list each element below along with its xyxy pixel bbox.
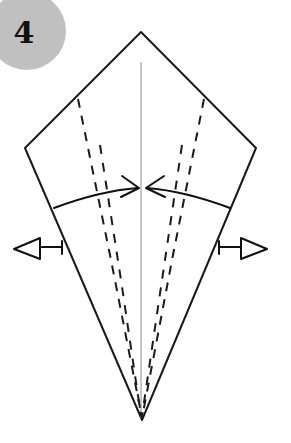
pull-arrow-right-outward-icon (219, 238, 267, 259)
origami-step-diagram: 4 (0, 0, 291, 443)
pull-arrow-right-head (241, 238, 267, 259)
pull-arrow-left-head (14, 238, 40, 259)
pull-arrow-left-outward-icon (14, 238, 62, 259)
step-number-label: 4 (14, 15, 35, 50)
step-number-badge: 4 (0, 0, 66, 70)
diagram-page: 4 (0, 0, 291, 443)
